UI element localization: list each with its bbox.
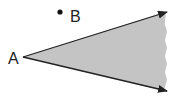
label-a: A bbox=[8, 50, 19, 67]
label-b: B bbox=[70, 8, 81, 25]
point-b-dot bbox=[57, 9, 62, 14]
diagram-svg: B A bbox=[0, 0, 179, 101]
angle-interior-region bbox=[23, 12, 167, 91]
angle-diagram: B A bbox=[0, 0, 179, 101]
